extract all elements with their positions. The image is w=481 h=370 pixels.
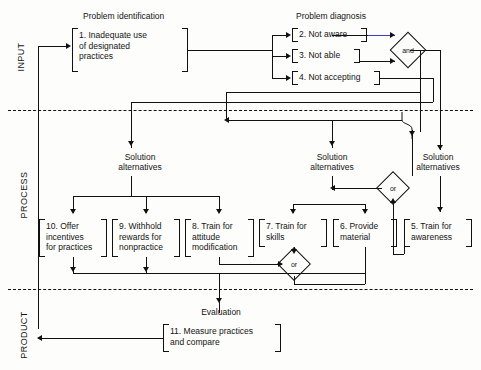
- stage-label-solution-alternatives-left: Solution alternatives: [108, 152, 172, 172]
- bracket-left: [39, 219, 45, 257]
- connector-box4-return-left: [131, 102, 433, 103]
- connector-box4-out: [380, 78, 433, 79]
- bracket-left: [72, 28, 78, 72]
- connector-evaluation-collector-lower: [294, 284, 365, 285]
- arrowhead-box10-collect: [70, 267, 76, 272]
- arrowhead-to-box6: [362, 209, 368, 214]
- section-header-problem-diagnosis: Problem diagnosis: [296, 11, 366, 21]
- arrowhead-and-gate-bottom: [390, 58, 395, 64]
- bracket-right: [391, 219, 397, 247]
- arrowhead-solution-left: [128, 141, 134, 146]
- box-8: 8. Train for attitude modification: [185, 219, 254, 257]
- connector-and-gate-branch-right: [440, 50, 441, 150]
- connector-box5-left-riser: [404, 219, 405, 254]
- connector-mid-return-down: [226, 92, 227, 120]
- box-4: 4. Not accepting: [292, 71, 380, 85]
- bracket-left: [112, 219, 118, 257]
- connector-box11-feedback: [38, 338, 163, 339]
- arrowhead-to-box3: [286, 53, 291, 59]
- connector-box8-down: [219, 257, 220, 264]
- box-6: 6. Provide material: [333, 219, 397, 247]
- box-7: 7. Train for skills: [259, 219, 327, 247]
- connector-input-to-box1: [38, 46, 68, 47]
- bracket-left: [333, 219, 339, 247]
- arrowhead-to-box10: [70, 209, 76, 214]
- arrowhead-to-box5: [437, 207, 443, 212]
- box-1: 1. Inadequate use of designated practice…: [72, 28, 188, 72]
- connector-mid-fan-bar: [293, 204, 365, 205]
- arrowhead-to-box9: [143, 209, 149, 214]
- bracket-left: [292, 49, 298, 63]
- connector-mid-return-bottom: [226, 120, 402, 121]
- section-header-problem-identification: Problem identification: [83, 11, 164, 21]
- connector-box5-bottom-link: [393, 254, 404, 255]
- band-label-input: INPUT: [16, 34, 26, 80]
- band-label-product: PRODUCT: [19, 305, 29, 365]
- box-5: 5. Train for awareness: [404, 219, 472, 247]
- arrowhead-to-box1: [66, 43, 71, 49]
- box-6-label: 6. Provide material: [340, 221, 390, 242]
- box-10-label: 10. Offer incentives for practices: [46, 221, 100, 253]
- arrowhead-hop: [409, 131, 415, 136]
- box-3: 3. Not able: [292, 49, 360, 63]
- band-label-process: PROCESS: [19, 165, 29, 225]
- arrowhead-box9-collect: [143, 267, 149, 272]
- box-9-label: 9. Withhold rewards for nonpractice: [119, 221, 173, 253]
- box-3-label: 3. Not able: [299, 50, 353, 61]
- bracket-right: [466, 219, 472, 247]
- connector-box1-to-fan: [188, 50, 272, 51]
- bracket-right: [101, 219, 107, 257]
- arrowhead-or-left-in: [278, 261, 283, 267]
- box-5-label: 5. Train for awareness: [411, 221, 465, 242]
- arrowhead-or-right-out: [330, 185, 335, 191]
- bracket-left: [163, 324, 169, 352]
- or-gate-right-label: or: [381, 176, 405, 200]
- connector-box2-out: [332, 35, 368, 36]
- band-divider-input-process: [8, 110, 473, 111]
- arrowhead-to-box2: [286, 32, 291, 38]
- or-gate-right: or: [381, 176, 405, 200]
- arrowhead-and-gate-top: [390, 32, 395, 38]
- connector-box4-down: [433, 78, 434, 102]
- band-divider-process-product: [8, 289, 473, 290]
- connector-or-right-down: [393, 200, 394, 254]
- arrowhead-to-solution-right: [437, 145, 443, 150]
- arrowhead-to-box7: [290, 209, 296, 214]
- connector-solution-left-down: [131, 176, 132, 196]
- arrowhead-or-left-top: [291, 249, 297, 254]
- bracket-right: [174, 219, 180, 257]
- bracket-right: [248, 219, 254, 257]
- box-1-label: 1. Inadequate use of designated practice…: [79, 30, 181, 62]
- box-4-label: 4. Not accepting: [299, 72, 373, 83]
- connector-mid-return-top: [226, 92, 420, 93]
- arrowhead-to-box8: [216, 209, 222, 214]
- connector-or-left-out: [294, 276, 295, 284]
- box-10: 10. Offer incentives for practices: [39, 219, 107, 257]
- connector-fan-vertical: [272, 35, 273, 79]
- box-7-label: 7. Train for skills: [266, 221, 320, 242]
- bracket-left: [185, 219, 191, 257]
- stage-label-solution-alternatives-right: Solution alternatives: [406, 152, 470, 172]
- connector-evaluation-to-box11: [219, 303, 220, 313]
- box-8-label: 8. Train for attitude modification: [192, 221, 247, 253]
- arrowhead-or-right-in: [390, 198, 396, 203]
- stage-label-evaluation: Evaluation: [186, 307, 256, 317]
- box-11: 11. Measure practices and compare: [163, 324, 281, 352]
- box-9: 9. Withhold rewards for nonpractice: [112, 219, 180, 257]
- connector-or-right-to-solution-mid: [332, 188, 382, 189]
- connector-hop-down-to-or: [412, 130, 413, 176]
- bracket-left: [292, 28, 298, 42]
- connector-and-gate-to-right-branch: [420, 50, 440, 51]
- bracket-right: [275, 324, 281, 352]
- bracket-right: [321, 219, 327, 247]
- bracket-left: [259, 219, 265, 247]
- arrowhead-to-box4: [286, 75, 291, 81]
- bracket-left: [292, 71, 298, 85]
- arrowhead-feedback-to-spine: [37, 335, 42, 341]
- arrowhead-mid-return: [224, 117, 229, 123]
- connector-box8-to-or-left: [219, 264, 282, 265]
- connector-left-spine: [38, 46, 39, 329]
- flowchart-diagram: INPUT PROCESS PRODUCT Problem identifica…: [0, 0, 481, 370]
- arrowhead-solution-mid: [329, 141, 335, 146]
- stage-label-solution-alternatives-middle: Solution alternatives: [300, 152, 364, 172]
